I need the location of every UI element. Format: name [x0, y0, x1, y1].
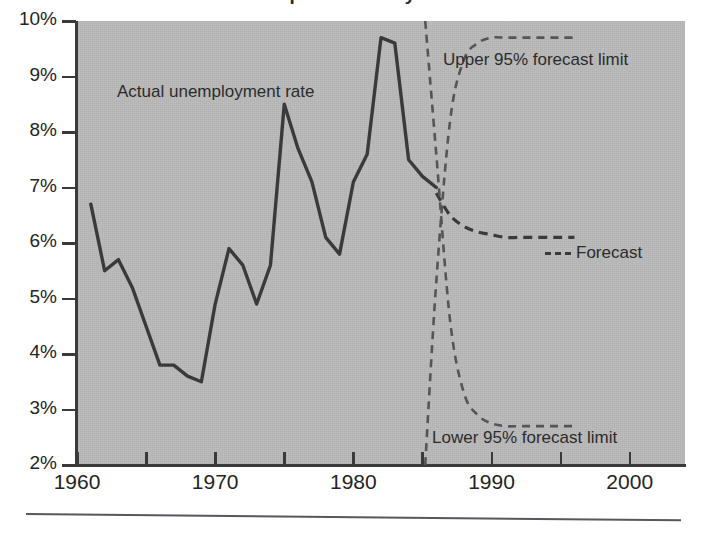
forecast-legend-dash-icon [545, 252, 571, 255]
series-lower-95-forecast-limit [425, 21, 574, 426]
unemployment-forecast-chart: 2%3%4%5%6%7%8%9%10% 19601970198019902000… [0, 0, 705, 536]
annotation-forecast: Forecast [576, 243, 642, 263]
series-forecast [436, 193, 574, 238]
annotation-lower-95-forecast-limit: Lower 95% forecast limit [432, 428, 617, 448]
annotation-upper-95-forecast-limit: Upper 95% forecast limit [443, 50, 628, 70]
chart-series-layer [0, 0, 705, 536]
annotation-actual-unemployment-rate: Actual unemployment rate [117, 82, 315, 102]
